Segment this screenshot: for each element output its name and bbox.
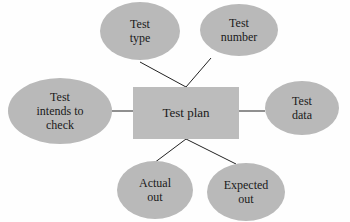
node-test-data-label: Test data [292, 94, 312, 122]
node-actual-out-label: Actual out [139, 176, 171, 204]
node-actual-out: Actual out [117, 161, 193, 219]
node-test-type: Test type [100, 2, 180, 60]
node-test-number-label: Test number [221, 16, 258, 44]
node-expected-out-label: Expected out [224, 178, 269, 206]
node-test-number: Test number [200, 4, 278, 56]
diagram-canvas: Test type Test number Test intends to ch… [0, 0, 350, 222]
node-test-data: Test data [265, 81, 339, 135]
node-test-plan-label: Test plan [162, 106, 209, 120]
edge-test-plan-to-test-number [186, 58, 211, 87]
edge-test-plan-to-expected-out [186, 139, 236, 164]
node-test-intends-to-check: Test intends to check [8, 78, 112, 144]
node-expected-out: Expected out [207, 163, 285, 221]
node-test-intends-to-check-label: Test intends to check [37, 90, 84, 132]
edge-test-plan-to-actual-out [154, 139, 186, 163]
node-test-type-label: Test type [130, 17, 151, 45]
node-test-plan: Test plan [133, 87, 239, 139]
edge-test-plan-to-test-type [140, 62, 186, 87]
